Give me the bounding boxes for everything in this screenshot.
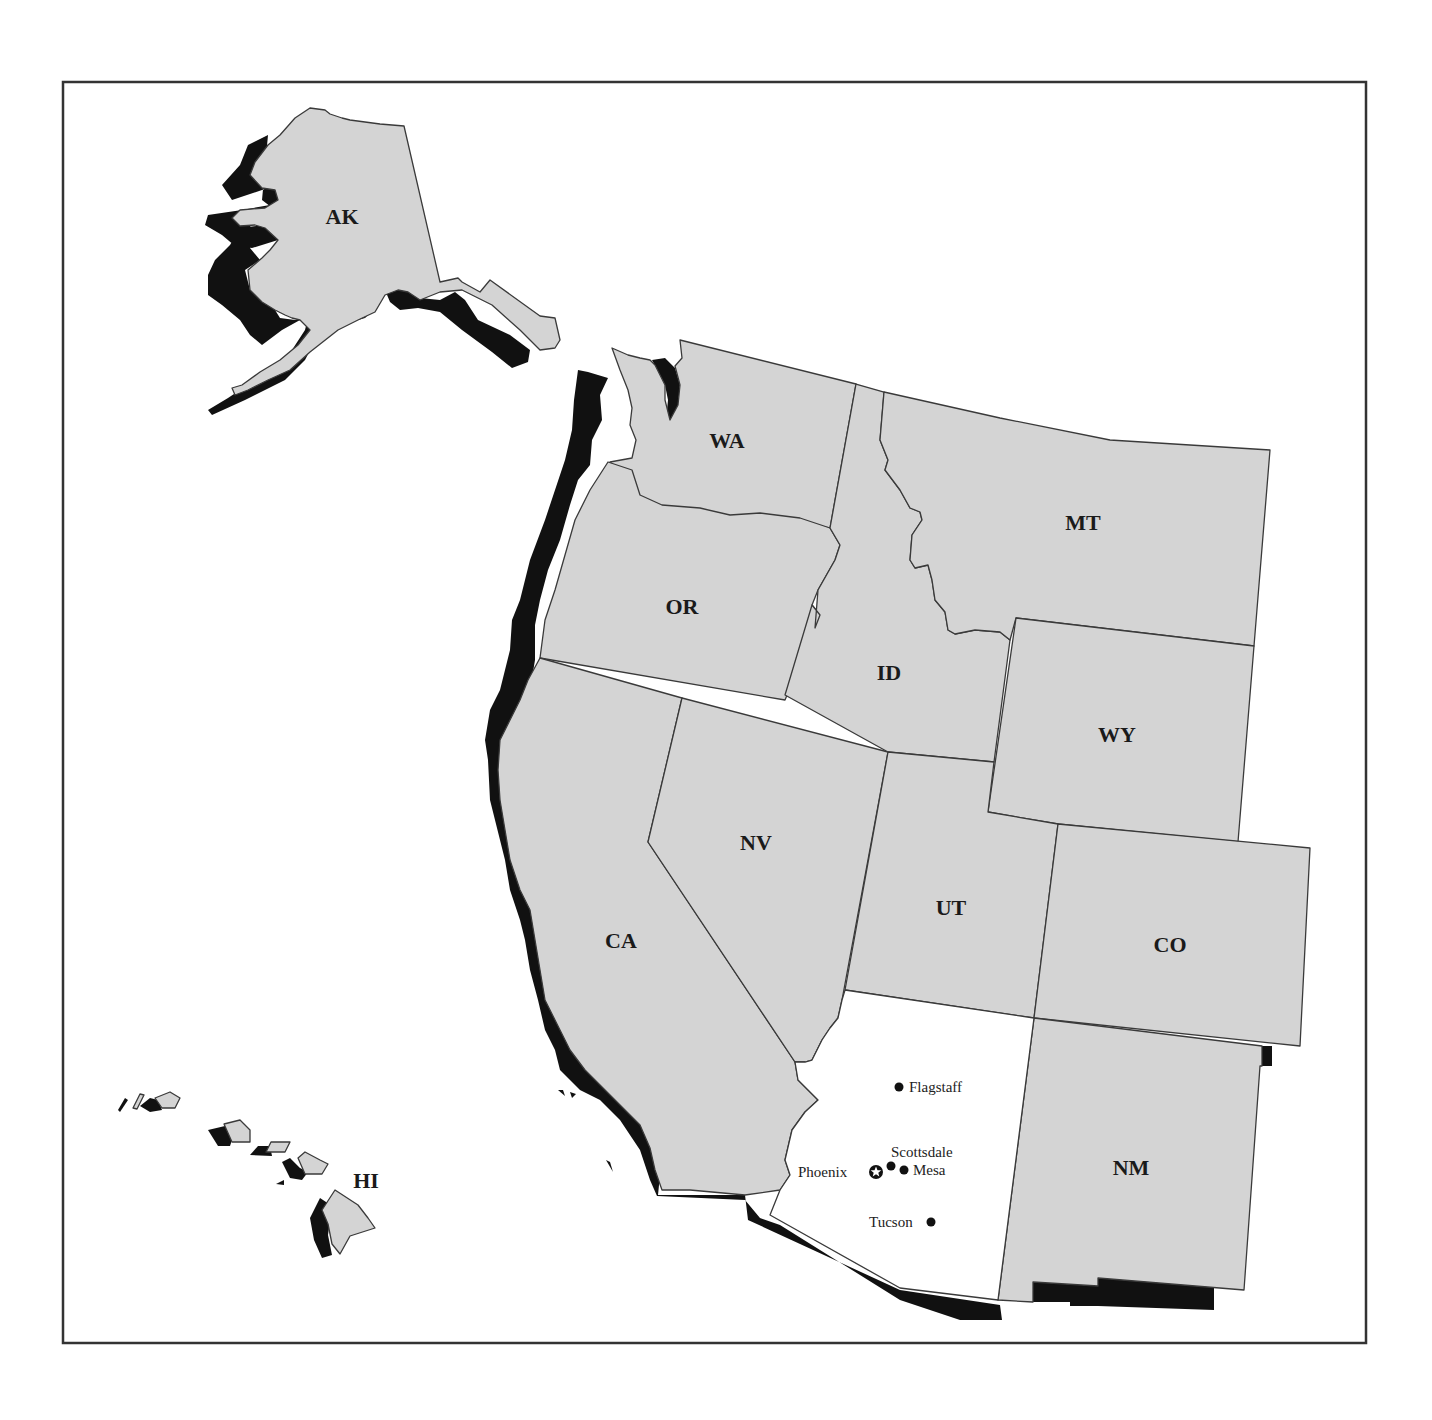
state-label-wy: WY bbox=[1098, 722, 1136, 747]
channel-island-3 bbox=[606, 1160, 613, 1172]
city-dot-icon bbox=[887, 1162, 896, 1171]
state-label-ca: CA bbox=[605, 928, 637, 953]
city-dot-icon bbox=[895, 1083, 904, 1092]
western-us-map: AK HI WA OR CA NV bbox=[0, 0, 1432, 1420]
channel-island-1 bbox=[558, 1090, 565, 1096]
state-hi[interactable]: HI bbox=[118, 1092, 379, 1258]
state-label-nm: NM bbox=[1113, 1155, 1150, 1180]
city-dot-icon bbox=[900, 1166, 909, 1175]
hi-island-big bbox=[322, 1190, 375, 1254]
hi-island-molokai bbox=[266, 1142, 290, 1152]
state-label-mt: MT bbox=[1065, 510, 1101, 535]
city-dot-icon bbox=[927, 1218, 936, 1227]
state-label-id: ID bbox=[877, 660, 901, 685]
nm-east-shadow bbox=[1262, 1046, 1272, 1066]
hi-island-shadow bbox=[118, 1098, 128, 1112]
channel-island-2 bbox=[570, 1092, 576, 1098]
state-ak[interactable]: AK bbox=[205, 108, 560, 415]
state-label-co: CO bbox=[1154, 932, 1187, 957]
state-label-wa: WA bbox=[709, 428, 745, 453]
state-label-ak: AK bbox=[326, 204, 359, 229]
city-label-scottsdale: Scottsdale bbox=[891, 1144, 953, 1160]
state-label-or: OR bbox=[666, 594, 700, 619]
city-label-mesa: Mesa bbox=[913, 1162, 946, 1178]
city-label-phoenix: Phoenix bbox=[798, 1164, 848, 1180]
state-label-hi: HI bbox=[353, 1168, 379, 1193]
state-wy[interactable]: WY bbox=[988, 618, 1254, 842]
city-label-tucson: Tucson bbox=[869, 1214, 913, 1230]
state-label-ut: UT bbox=[936, 895, 967, 920]
state-co[interactable]: CO bbox=[1034, 824, 1310, 1046]
state-nm[interactable]: NM bbox=[998, 1018, 1262, 1302]
state-label-nv: NV bbox=[740, 830, 772, 855]
city-label-flagstaff: Flagstaff bbox=[909, 1079, 962, 1095]
